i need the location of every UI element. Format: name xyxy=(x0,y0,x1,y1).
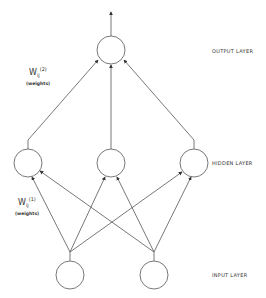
edge-h3-out xyxy=(124,60,194,149)
hidden-node-1 xyxy=(14,149,42,177)
hidden-layer-label: HIDDEN LAYER xyxy=(212,160,253,166)
network-diagram xyxy=(0,0,266,298)
weight-label-1: Wij(1) xyxy=(18,196,36,208)
input-node-2 xyxy=(140,261,168,289)
output-node xyxy=(97,36,125,64)
hidden-node-3 xyxy=(180,149,208,177)
input-layer-label: INPUT LAYER xyxy=(212,272,247,278)
edge-i1-h3 xyxy=(70,172,182,252)
hidden-node-2 xyxy=(97,149,125,177)
weight-label-2: Wij(2) xyxy=(29,66,47,78)
input-node-1 xyxy=(56,261,84,289)
edge-i2-h1 xyxy=(40,171,154,252)
output-layer-label: OUTPUT LAYER xyxy=(212,48,253,54)
weight-note-2: (weights) xyxy=(26,81,50,86)
edge-i1-h2 xyxy=(70,177,105,252)
weight-note-1: (weights) xyxy=(15,211,39,216)
